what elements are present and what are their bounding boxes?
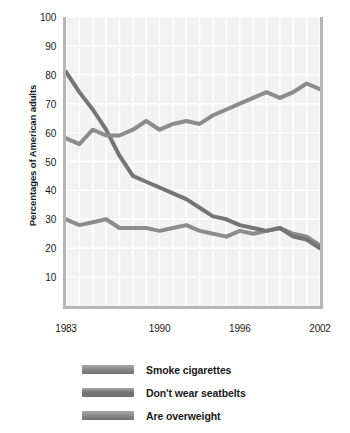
x-tick-label: 1996 (229, 323, 250, 334)
legend-item: Don't wear seatbelts (82, 383, 312, 402)
y-tick-label: 70 (22, 98, 56, 109)
y-axis-tick-labels: 100908070605040302010 (22, 0, 56, 433)
y-tick-label: 40 (22, 185, 56, 196)
legend-label: Are overweight (146, 410, 220, 422)
y-tick-label: 50 (22, 156, 56, 167)
x-tick-label: 1983 (55, 323, 76, 334)
x-tick-label: 1990 (149, 323, 170, 334)
series-line (66, 83, 320, 144)
legend-label: Don't wear seatbelts (146, 387, 246, 399)
chart-figure: Percentages of American adults 100908070… (0, 0, 350, 433)
plot-area (63, 17, 323, 309)
y-tick-label: 10 (22, 272, 56, 283)
legend-label: Smoke cigarettes (146, 364, 231, 376)
series-line (66, 219, 320, 245)
chart-legend: Smoke cigarettesDon't wear seatbeltsAre … (82, 360, 312, 429)
y-tick-label: 100 (22, 12, 56, 23)
legend-swatch (82, 411, 134, 420)
y-tick-label: 20 (22, 243, 56, 254)
legend-item: Are overweight (82, 406, 312, 425)
legend-swatch (82, 388, 134, 397)
y-tick-label: 60 (22, 127, 56, 138)
y-tick-label: 30 (22, 214, 56, 225)
legend-swatch (82, 365, 134, 374)
y-tick-label: 80 (22, 69, 56, 80)
y-tick-label: 90 (22, 40, 56, 51)
x-tick-label: 2002 (309, 323, 330, 334)
legend-item: Smoke cigarettes (82, 360, 312, 379)
chart-lines-svg (66, 17, 320, 306)
plot-inner (66, 17, 320, 306)
